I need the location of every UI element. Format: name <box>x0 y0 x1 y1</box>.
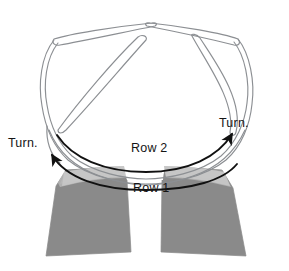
label-turn-right: Turn. <box>219 116 249 130</box>
label-turn-left: Turn. <box>8 136 38 150</box>
needle-shaft-left <box>58 36 146 133</box>
diagram-canvas: Turn. Turn. Row 2 Row 1 <box>0 0 289 271</box>
needle-tip-left <box>53 23 156 45</box>
circular-needle-group <box>40 23 253 185</box>
knitting-diagram-svg <box>0 0 289 271</box>
needle-cable-inner <box>45 42 248 179</box>
label-row-1: Row 1 <box>133 181 169 195</box>
label-row-2: Row 2 <box>131 141 167 155</box>
